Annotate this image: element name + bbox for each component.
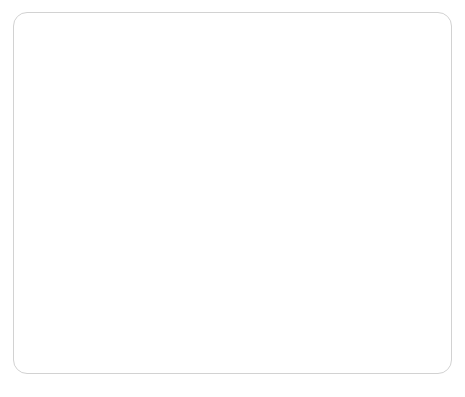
legend-swatch-icon: [250, 28, 258, 36]
legend-item-intensity-color: [250, 28, 262, 36]
chart-card: [13, 12, 452, 374]
legend-item-intensity: [181, 28, 193, 36]
legend-item-color: [204, 28, 216, 36]
legend-item-intensity-color-texture: [273, 28, 285, 36]
bar-groups: [76, 58, 437, 313]
legend-swatch-icon: [204, 28, 212, 36]
plot-area: [76, 58, 437, 313]
chart-legend: [14, 28, 451, 36]
legend-swatch-icon: [181, 28, 189, 36]
legend-item-texture: [227, 28, 239, 36]
legend-swatch-icon: [227, 28, 235, 36]
legend-swatch-icon: [273, 28, 281, 36]
